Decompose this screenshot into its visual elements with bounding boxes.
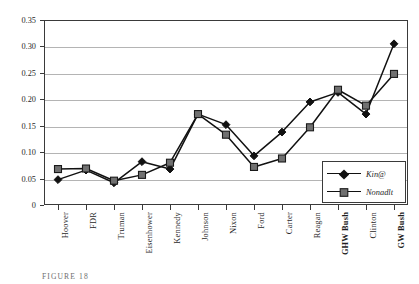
gridline [45,74,407,75]
x-axis-tick-mark [282,205,283,210]
y-axis-tick-mark [40,205,44,206]
diamond-glyph [338,169,350,180]
chart-figure: 00.050.100.150.200.250.300.35 HooverFDRT… [0,0,419,284]
gridline [45,153,407,154]
y-axis-tick-label: 0.30 [2,42,36,51]
x-axis-tick-label: Carter [285,212,294,234]
x-axis-tick-label: Johnson [201,212,210,241]
x-axis-tick-mark [366,205,367,210]
x-axis-tick-mark [394,205,395,210]
y-axis-tick-label: 0.15 [2,121,36,130]
legend-label-nonkin: Nonadlt [361,188,393,197]
x-axis-tick-mark [254,205,255,210]
diamond-marker-icon [327,167,361,181]
gridline [45,127,407,128]
x-axis-tick-mark [226,205,227,210]
figure-caption: FIGURE 18 [42,272,89,281]
y-axis-tick-label: 0.35 [2,16,36,25]
x-axis-tick-label: FDR [89,212,98,229]
legend-item-nonkin: Nonadlt [327,183,401,201]
x-axis-tick-mark [170,205,171,210]
x-axis-tick-mark [310,205,311,210]
x-axis-tick-label: Clinton [369,212,378,239]
x-axis-tick-label: Hoover [61,212,70,238]
x-axis-tick-label: GHW Bush [341,212,350,255]
legend-label-kin: Kin@ [361,170,386,179]
x-axis-tick-label: Reagan [313,212,322,238]
x-axis-tick-label: Nixon [229,212,238,234]
x-axis-tick-label: Ford [257,212,266,229]
x-axis-tick-label: GW Bush [397,212,406,248]
legend: Kin@ Nonadlt [322,161,406,203]
legend-item-kin: Kin@ [327,165,401,183]
x-axis-tick-label: Truman [117,212,126,239]
y-axis-tick-label: 0.25 [2,68,36,77]
gridline [45,47,407,48]
y-axis-tick-label: 0.10 [2,148,36,157]
x-axis-tick-mark [338,205,339,210]
y-axis-tick-label: 0.05 [2,174,36,183]
x-axis-tick-mark [58,205,59,210]
x-axis-tick-mark [198,205,199,210]
y-axis-tick-label: 0 [2,201,36,210]
x-axis-tick-label: Kennedy [173,212,182,244]
x-axis-tick-label: Eisenhower [145,212,154,254]
y-axis-tick-label: 0.20 [2,95,36,104]
x-axis-tick-mark [142,205,143,210]
x-axis-tick-mark [86,205,87,210]
square-glyph [338,187,350,198]
x-axis-tick-mark [114,205,115,210]
square-marker-icon [327,185,361,199]
gridline [45,100,407,101]
